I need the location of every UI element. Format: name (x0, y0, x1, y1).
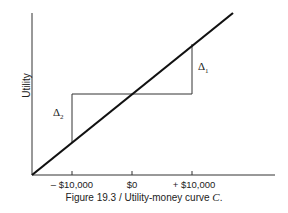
delta1-subscript: 1 (205, 67, 209, 75)
chart-canvas (0, 0, 288, 213)
delta2-label: Δ2 (53, 106, 64, 121)
caption-variable: C (212, 191, 219, 203)
caption-period: . (220, 192, 223, 203)
delta1-label: Δ1 (198, 60, 209, 75)
tick-label-pos: + $10,000 (173, 179, 216, 190)
tick-label-neg: – $10,000 (51, 179, 93, 190)
y-axis-label: Utility (21, 66, 32, 106)
utility-curve (32, 13, 233, 175)
figure-caption: Figure 19.3 / Utility-money curve C. (0, 191, 288, 203)
tick-label-zero: $0 (127, 179, 138, 190)
delta2-subscript: 2 (60, 113, 64, 121)
caption-text: Figure 19.3 / Utility-money curve (66, 192, 213, 203)
